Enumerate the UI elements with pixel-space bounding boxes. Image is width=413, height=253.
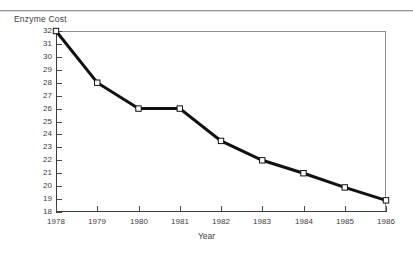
y-axis-tick-label: 21	[43, 169, 52, 177]
y-axis-tick	[57, 212, 62, 213]
data-point-marker	[342, 185, 347, 190]
data-series-enzyme-cost	[56, 31, 386, 212]
y-axis-tick-labels: 323130292827262524232221201918	[26, 31, 52, 212]
x-axis-tick-label: 1985	[325, 218, 365, 226]
data-point-marker	[53, 28, 58, 33]
x-axis-label: Year	[0, 231, 413, 241]
y-axis-tick-label: 31	[43, 40, 52, 48]
data-point-marker	[136, 106, 141, 111]
y-axis-tick-label: 30	[43, 53, 52, 61]
x-axis-tick-label: 1979	[77, 218, 117, 226]
x-axis-tick-label: 1981	[160, 218, 200, 226]
x-axis-tick-label: 1978	[36, 218, 76, 226]
y-axis-tick-label: 28	[43, 79, 52, 87]
x-axis-tick	[386, 206, 387, 211]
enzyme-cost-line-chart: Enzyme Cost 3231302928272625242322212019…	[0, 0, 413, 253]
y-axis-label: Enzyme Cost	[14, 14, 67, 24]
x-axis-tick-label: 1980	[119, 218, 159, 226]
series-line	[56, 31, 386, 200]
y-axis-tick-label: 29	[43, 66, 52, 74]
y-axis-tick-label: 18	[43, 208, 52, 216]
data-point-marker	[95, 80, 100, 85]
data-point-marker	[301, 171, 306, 176]
data-point-marker	[177, 106, 182, 111]
y-axis-tick-label: 23	[43, 143, 52, 151]
x-axis-tick-label: 1986	[366, 218, 406, 226]
y-axis-tick-label: 20	[43, 182, 52, 190]
x-axis-tick-label: 1984	[284, 218, 324, 226]
data-point-marker	[218, 138, 223, 143]
data-point-marker	[383, 198, 388, 203]
y-axis-tick-label: 24	[43, 130, 52, 138]
data-point-marker	[260, 158, 265, 163]
y-axis-tick-label: 32	[43, 27, 52, 35]
plot-area	[56, 31, 386, 212]
x-axis-tick-label: 1982	[201, 218, 241, 226]
y-axis-tick-label: 26	[43, 105, 52, 113]
y-axis-tick-label: 22	[43, 156, 52, 164]
x-axis-tick-label: 1983	[242, 218, 282, 226]
y-axis-tick-label: 25	[43, 118, 52, 126]
y-axis-tick-label: 19	[43, 195, 52, 203]
y-axis-tick-label: 27	[43, 92, 52, 100]
